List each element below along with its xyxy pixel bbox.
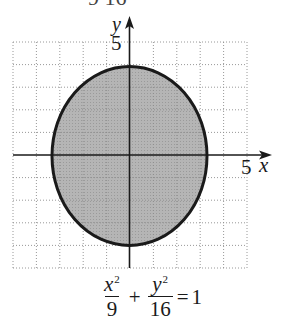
fraction-x-term: x2 9 xyxy=(102,274,122,320)
x-axis-label: x xyxy=(259,155,268,176)
var-x: x xyxy=(104,272,113,296)
fraction-y-term: y2 16 xyxy=(148,274,173,320)
var-y: y xyxy=(152,272,161,296)
numerator-x: x2 xyxy=(102,274,122,296)
denominator-16: 16 xyxy=(148,296,173,320)
x-tick-label: 5 xyxy=(241,157,252,178)
exponent: 2 xyxy=(114,273,120,285)
numerator-y: y2 xyxy=(150,274,170,296)
denominator-9: 9 xyxy=(105,296,120,320)
plus-sign: + xyxy=(129,287,141,308)
equals-sign: = xyxy=(177,287,189,308)
y-tick-label: 5 xyxy=(111,33,122,54)
rhs-value: 1 xyxy=(192,285,203,310)
exponent: 2 xyxy=(163,273,169,285)
ellipse-equation: x2 9 + y2 16 = 1 xyxy=(100,272,202,322)
